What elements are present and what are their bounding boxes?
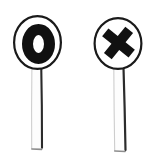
sign-o-post [32, 64, 42, 150]
signs-drawing [0, 0, 159, 160]
sign-x-post-bottom-edge [115, 151, 125, 152]
sign-illustration-scene: O X [0, 0, 159, 160]
sign-x-post [114, 64, 126, 152]
sign-o-post-right-edge [41, 64, 42, 148]
